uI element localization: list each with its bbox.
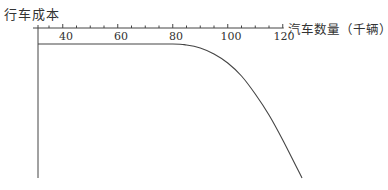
x-tick-label-100: 100: [221, 30, 242, 43]
x-tick-label-120: 120: [274, 30, 295, 43]
x-tick-label-80: 80: [169, 30, 183, 43]
cost-curve-line: [38, 44, 302, 178]
chart: 行车成本 汽车数量（千辆） 40 60 80 100 120: [0, 0, 388, 190]
x-tick-label-60: 60: [114, 30, 128, 43]
x-tick-label-40: 40: [59, 30, 73, 43]
plot-area: [0, 0, 388, 190]
